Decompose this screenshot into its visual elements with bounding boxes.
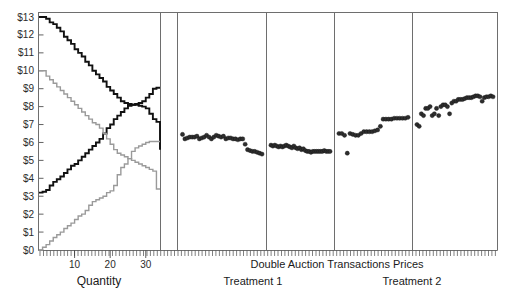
- x-tick-label-0: 10: [69, 259, 81, 270]
- y-tick-label-3: $3: [23, 191, 35, 202]
- y-tick-label-12: $12: [17, 29, 34, 40]
- y-tick-label-0: $0: [23, 245, 35, 256]
- y-tick-label-7: $7: [23, 119, 35, 130]
- transaction-point: [241, 137, 245, 141]
- y-tick-label-10: $10: [17, 65, 34, 76]
- transaction-point: [243, 142, 247, 146]
- transaction-point: [445, 105, 449, 109]
- figure-root: $0$1$2$3$4$5$6$7$8$9$10$11$12$13 102030 …: [0, 0, 509, 300]
- quantity-axis-title: Quantity: [77, 274, 122, 288]
- treatment-2-label: Treatment 2: [383, 275, 442, 287]
- x-tick-label-1: 20: [105, 259, 117, 270]
- x-tick-label-2: 30: [140, 259, 152, 270]
- y-tick-label-11: $11: [18, 47, 34, 58]
- transaction-point: [434, 106, 438, 110]
- transaction-point: [328, 149, 332, 153]
- transaction-point: [491, 95, 495, 99]
- transaction-point: [447, 112, 451, 116]
- transaction-point: [378, 124, 382, 128]
- transaction-point: [345, 151, 349, 155]
- transaction-point: [432, 112, 436, 116]
- transaction-point: [376, 128, 380, 132]
- y-tick-label-9: $9: [23, 83, 35, 94]
- y-tick-label-13: $13: [17, 12, 34, 23]
- y-tick-label-8: $8: [23, 101, 35, 112]
- transaction-point: [260, 152, 264, 156]
- y-tick-label-2: $2: [23, 209, 35, 220]
- transaction-point: [421, 113, 425, 117]
- treatment-1-label: Treatment 1: [224, 275, 283, 287]
- transaction-point: [478, 95, 482, 99]
- transaction-point: [428, 105, 432, 109]
- transaction-point: [417, 124, 421, 128]
- chart-caption: Double Auction Transactions Prices: [250, 258, 424, 270]
- y-tick-label-1: $1: [23, 227, 35, 238]
- y-tick-label-4: $4: [23, 173, 35, 184]
- double-auction-figure: $0$1$2$3$4$5$6$7$8$9$10$11$12$13 102030 …: [0, 0, 509, 300]
- transaction-point: [342, 133, 346, 137]
- transaction-point: [406, 115, 410, 119]
- transaction-point: [180, 132, 184, 136]
- y-tick-label-5: $5: [23, 155, 35, 166]
- y-tick-label-6: $6: [23, 137, 35, 148]
- transaction-point: [437, 113, 441, 117]
